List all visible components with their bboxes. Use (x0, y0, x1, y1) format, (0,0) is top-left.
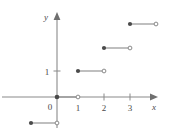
y-axis-arrowhead (54, 12, 61, 20)
open-dot-0-lower (55, 121, 59, 125)
closed-dot-3 (128, 22, 132, 26)
x-tick-label-1: 1 (76, 103, 81, 113)
plot-area: y x 0 1 1 2 3 (0, 0, 169, 136)
closed-dot-neg1 (29, 121, 33, 125)
x-tick-label-3: 3 (128, 103, 133, 113)
closed-dot-1 (76, 69, 80, 73)
closed-dot-2 (102, 46, 106, 50)
step-function-graph: y x 0 1 1 2 3 (0, 0, 169, 136)
open-dot-4-level3 (154, 22, 158, 26)
open-dot-1-axis (76, 95, 80, 99)
x-axis-arrowhead (150, 94, 158, 101)
open-dot-3-level2 (128, 46, 132, 50)
labels-group: y x 0 1 1 2 3 (43, 12, 156, 113)
y-axis-label: y (43, 12, 48, 22)
closed-dot-origin (55, 95, 60, 100)
tick-marks-group (54, 71, 131, 101)
open-endpoints-group (55, 22, 158, 125)
x-axis-label: x (151, 102, 156, 112)
x-tick-label-2: 2 (102, 103, 107, 113)
y-tick-label-1: 1 (45, 67, 50, 77)
open-dot-2-level1 (102, 69, 106, 73)
origin-label: 0 (48, 102, 53, 112)
